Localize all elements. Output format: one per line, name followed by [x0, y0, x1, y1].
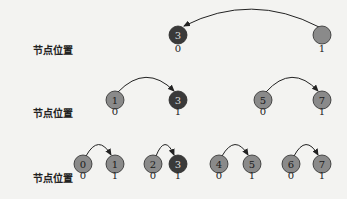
node-value: 7	[319, 95, 325, 106]
node-position-label: 1	[175, 170, 181, 181]
arrow-connector	[266, 77, 318, 92]
arrow-connector	[118, 77, 174, 92]
tree-node: 3	[169, 26, 187, 44]
node-value: 4	[216, 159, 222, 170]
node-position-label: 0	[288, 170, 294, 181]
arrow-connector	[294, 145, 318, 156]
node-value: 0	[80, 159, 86, 170]
node-position-label: 1	[249, 170, 255, 181]
node-position-label: 1	[112, 170, 118, 181]
node-position-label: 1	[319, 43, 325, 54]
node-value: 1	[112, 159, 118, 170]
node-value: 1	[112, 95, 118, 106]
node-position-label: 0	[216, 170, 222, 181]
node-value: 3	[175, 30, 181, 41]
node-position-label: 1	[319, 170, 325, 181]
node-position-label: 0	[150, 170, 156, 181]
arrow-connector	[156, 145, 174, 156]
node-value: 6	[288, 159, 294, 170]
tree-reduction-diagram: 3135701234567 节点位置01节点位置0101节点位置01010101	[0, 0, 347, 199]
arrow-connector	[184, 9, 319, 27]
row-label: 节点位置	[33, 170, 73, 185]
node-position-label: 0	[112, 106, 118, 117]
node-position-label: 0	[175, 43, 181, 54]
node-value: 5	[260, 95, 266, 106]
node-position-label: 1	[319, 106, 325, 117]
arrow-connector	[86, 145, 111, 156]
node-position-label: 0	[260, 106, 266, 117]
node-circle	[313, 26, 331, 44]
node-value: 7	[319, 159, 325, 170]
row-label: 节点位置	[33, 42, 73, 57]
node-position-label: 0	[80, 170, 86, 181]
row-label: 节点位置	[33, 105, 73, 120]
tree-node	[313, 26, 331, 44]
node-value: 3	[175, 95, 181, 106]
node-value: 5	[249, 159, 255, 170]
node-value: 3	[175, 159, 181, 170]
node-value: 2	[150, 159, 156, 170]
node-position-label: 1	[175, 106, 181, 117]
arrow-connector	[222, 145, 248, 156]
